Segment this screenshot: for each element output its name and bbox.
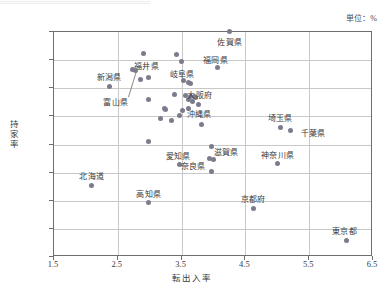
point-label: 神奈川県 bbox=[261, 152, 294, 160]
point-label: 新潟県 bbox=[97, 74, 122, 82]
data-point bbox=[174, 52, 179, 57]
x-tick-label: 5.5 bbox=[303, 259, 314, 269]
data-point bbox=[344, 238, 349, 243]
y-tick-mark bbox=[49, 87, 53, 88]
x-tick-label: 4.5 bbox=[239, 259, 250, 269]
gridline-vertical bbox=[309, 32, 310, 255]
y-tick-mark bbox=[49, 144, 53, 145]
gridline-horizontal bbox=[54, 201, 371, 202]
point-label: 愛知県 bbox=[166, 153, 191, 161]
page-artifact-strip bbox=[0, 0, 150, 6]
data-point bbox=[278, 125, 283, 130]
scatter-chart: 単位：% 持家率 転出入率 45.050.055.060.065.070.075… bbox=[0, 0, 383, 286]
data-point bbox=[158, 116, 163, 121]
x-axis-title: 転出入率 bbox=[0, 271, 383, 283]
data-point bbox=[172, 92, 177, 97]
point-label: 埼玉県 bbox=[268, 115, 293, 123]
point-label: 北海道 bbox=[79, 173, 104, 181]
gridline-vertical bbox=[182, 32, 183, 255]
point-label: 富山県 bbox=[103, 99, 128, 107]
gridline-vertical bbox=[118, 32, 119, 255]
y-tick-mark bbox=[49, 228, 53, 229]
gridline-horizontal bbox=[54, 88, 371, 89]
y-tick-mark bbox=[49, 31, 53, 32]
x-tick-label: 1.5 bbox=[48, 259, 59, 269]
point-label: 千葉県 bbox=[301, 130, 326, 138]
point-label: 沖縄県 bbox=[187, 111, 212, 119]
point-label: 高知県 bbox=[136, 191, 161, 199]
y-tick-mark bbox=[49, 200, 53, 201]
point-label: 京都府 bbox=[241, 196, 266, 204]
point-label: 佐賀県 bbox=[217, 39, 242, 47]
x-tick-label: 6.5 bbox=[367, 259, 378, 269]
gridline-vertical bbox=[245, 32, 246, 255]
data-point bbox=[207, 156, 212, 161]
point-label: 大阪府 bbox=[187, 92, 212, 100]
point-label: 福岡県 bbox=[203, 57, 228, 65]
data-point bbox=[209, 169, 214, 174]
y-tick-mark bbox=[49, 172, 53, 173]
x-tick-label: 3.5 bbox=[175, 259, 186, 269]
point-label: 奈良県 bbox=[181, 163, 206, 171]
gridline-horizontal bbox=[54, 116, 371, 117]
data-point bbox=[138, 77, 143, 82]
point-label: 東京都 bbox=[332, 228, 357, 236]
data-point bbox=[107, 84, 112, 89]
point-label: 滋賀県 bbox=[214, 149, 239, 157]
x-tick-label: 2.5 bbox=[111, 259, 122, 269]
y-axis-title: 持家率 bbox=[8, 120, 17, 150]
data-point bbox=[146, 97, 151, 102]
data-point bbox=[199, 122, 204, 127]
y-tick-mark bbox=[49, 115, 53, 116]
y-tick-mark bbox=[49, 59, 53, 60]
data-point bbox=[251, 206, 256, 211]
unit-note: 単位：% bbox=[346, 12, 377, 23]
point-label: 岐阜県 bbox=[170, 71, 195, 79]
gridline-horizontal bbox=[54, 229, 371, 230]
